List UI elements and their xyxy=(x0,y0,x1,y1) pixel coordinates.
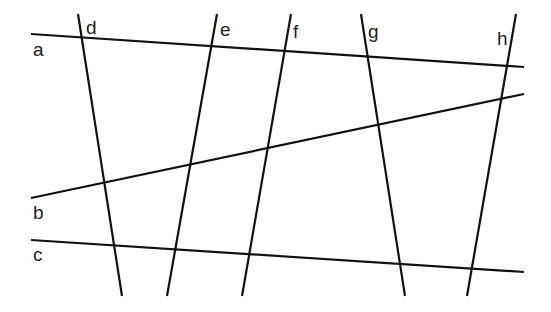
label-e: e xyxy=(220,19,231,40)
line-g xyxy=(361,14,405,296)
label-b: b xyxy=(33,202,44,223)
line-f xyxy=(242,14,291,296)
line-intersection-diagram: a b c d e f g h xyxy=(0,0,551,312)
line-h xyxy=(467,14,516,296)
line-e xyxy=(167,14,217,296)
label-h: h xyxy=(497,28,508,49)
label-a: a xyxy=(33,39,44,60)
label-c: c xyxy=(33,244,43,265)
label-f: f xyxy=(293,21,299,42)
line-c xyxy=(31,240,524,272)
label-d: d xyxy=(86,17,97,38)
line-d xyxy=(78,14,122,296)
label-g: g xyxy=(368,21,379,42)
line-a xyxy=(31,34,524,67)
